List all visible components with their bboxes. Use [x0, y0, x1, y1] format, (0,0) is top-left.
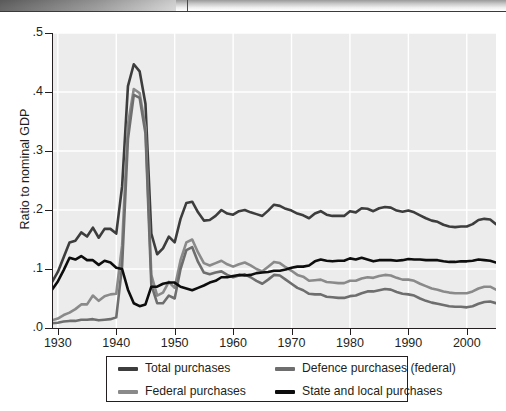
legend-swatch [275, 390, 295, 394]
y-axis-line [52, 33, 53, 329]
y-axis-label-wrap: .2 [0, 210, 43, 211]
x-axis-label: 1960 [210, 336, 256, 350]
x-axis-label: 1940 [93, 336, 139, 350]
x-axis-tick [175, 329, 176, 335]
y-axis-label: .5 [0, 26, 43, 38]
x-axis-tick [350, 329, 351, 335]
y-axis-label-wrap: .4 [0, 92, 43, 93]
y-axis-label: .1 [0, 262, 43, 274]
y-axis-tick [45, 328, 52, 329]
legend-item: State and local purchases [264, 385, 409, 398]
legend-swatch [118, 367, 138, 371]
plot-area [52, 33, 496, 328]
x-axis-line [52, 328, 496, 329]
y-axis-label: .3 [0, 144, 43, 156]
page-scan-artifact-bar [0, 0, 506, 11]
legend-item: Total purchases [107, 362, 264, 375]
y-axis-tick [45, 269, 52, 270]
y-axis-label-wrap: .1 [0, 269, 43, 270]
y-axis-title: Ratio to nominal GDP [18, 84, 32, 254]
legend-item: Federal purchases [107, 385, 264, 398]
y-axis-label: .2 [0, 203, 43, 215]
x-axis-tick [116, 329, 117, 335]
y-axis-label-wrap: .5 [0, 33, 43, 34]
x-axis-label: 1980 [327, 336, 373, 350]
x-axis-tick [58, 329, 59, 335]
series-line [52, 64, 496, 282]
x-axis-label: 1950 [152, 336, 198, 350]
y-axis-label-wrap: .0 [0, 328, 43, 329]
scan-shadow [0, 0, 176, 11]
x-axis-tick [408, 329, 409, 335]
line-chart: Ratio to nominal GDP .0.1.2.3.4.5 193019… [0, 12, 506, 352]
legend-swatch [275, 367, 295, 371]
y-axis-tick [45, 151, 52, 152]
x-axis-label: 1930 [35, 336, 81, 350]
legend-swatch [118, 390, 138, 394]
x-axis-label: 2000 [444, 336, 490, 350]
x-axis-tick [292, 329, 293, 335]
y-axis-label-wrap: .3 [0, 151, 43, 152]
y-axis-tick [45, 210, 52, 211]
plot-svg [52, 33, 496, 328]
y-axis-tick [45, 92, 52, 93]
y-axis-tick [45, 33, 52, 34]
x-axis-tick [467, 329, 468, 335]
chart-legend: Total purchasesDefence purchases (federa… [106, 356, 408, 402]
legend-label: Total purchases [145, 362, 230, 375]
x-axis-label: 1970 [269, 336, 315, 350]
legend-label: State and local purchases [302, 385, 442, 398]
y-axis-label: .4 [0, 85, 43, 97]
x-axis-label: 1990 [385, 336, 431, 350]
legend-item: Defence purchases (federal) [264, 362, 409, 375]
legend-label: Federal purchases [145, 385, 246, 398]
chart-page: Ratio to nominal GDP .0.1.2.3.4.5 193019… [0, 0, 506, 411]
y-axis-label: .0 [0, 321, 43, 333]
x-axis-tick [233, 329, 234, 335]
legend-label: Defence purchases (federal) [302, 362, 456, 375]
